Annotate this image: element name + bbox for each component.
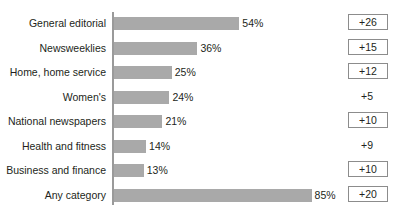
bar-row: Any category85%+20 (0, 187, 396, 212)
bar (114, 115, 163, 128)
bar (114, 189, 312, 202)
change-value-boxed: +10 (348, 112, 388, 128)
change-value-boxed: +10 (348, 161, 388, 177)
bar (114, 91, 170, 104)
bar-track (114, 189, 312, 202)
bar-value-label: 21% (165, 113, 186, 130)
bar-value-label: 36% (200, 40, 221, 57)
bar-row: Newsweeklies36%+15 (0, 40, 396, 65)
bar-track (114, 115, 163, 128)
bar-row: Women's24%+5 (0, 89, 396, 114)
category-label: Newsweeklies (0, 40, 106, 57)
category-label: Women's (0, 89, 106, 106)
change-value-boxed: +12 (348, 63, 388, 79)
bar-value-label: 13% (147, 162, 168, 179)
bar (114, 140, 147, 153)
category-label: Business and finance (0, 162, 106, 179)
bar-track (114, 42, 198, 55)
category-label: Any category (0, 187, 106, 204)
bar (114, 17, 240, 30)
bar-value-label: 54% (242, 15, 263, 32)
change-value-boxed: +26 (348, 14, 388, 30)
change-value: +5 (348, 89, 386, 104)
horizontal-bar-chart: General editorial54%+26Newsweeklies36%+1… (0, 0, 396, 215)
bar-track (114, 66, 172, 79)
category-label: General editorial (0, 15, 106, 32)
bar-value-label: 85% (315, 187, 336, 204)
bar-row: Home, home service25%+12 (0, 64, 396, 89)
bar-row: National newspapers21%+10 (0, 113, 396, 138)
bar-row: Health and fitness14%+9 (0, 138, 396, 163)
change-value-boxed: +20 (348, 186, 388, 202)
bar-row: Business and finance13%+10 (0, 162, 396, 187)
bar-track (114, 91, 170, 104)
bar-value-label: 24% (172, 89, 193, 106)
bar-track (114, 17, 240, 30)
bar-value-label: 14% (149, 138, 170, 155)
change-value: +9 (348, 138, 386, 153)
bar-track (114, 164, 144, 177)
category-label: National newspapers (0, 113, 106, 130)
bar-row: General editorial54%+26 (0, 15, 396, 40)
change-value-boxed: +15 (348, 39, 388, 55)
bar (114, 42, 198, 55)
bar (114, 164, 144, 177)
category-label: Health and fitness (0, 138, 106, 155)
bar (114, 66, 172, 79)
bar-value-label: 25% (175, 64, 196, 81)
category-label: Home, home service (0, 64, 106, 81)
bar-track (114, 140, 147, 153)
